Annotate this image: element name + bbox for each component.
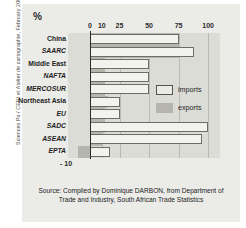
x-tick-label-0: 0 xyxy=(88,22,92,29)
category-label-mercosur: MERCOSUR xyxy=(26,86,66,93)
bar-exports xyxy=(78,146,90,159)
category-label-northeast-asia: Northeast Asia xyxy=(18,98,66,105)
legend-label-exports: exports xyxy=(178,103,202,112)
category-label-nafta: NAFTA xyxy=(43,73,66,80)
category-label-asean: ASEAN xyxy=(42,136,66,143)
category-label-middle-east: Middle East xyxy=(28,61,66,68)
bar-imports xyxy=(90,59,149,69)
category-label-china: China xyxy=(47,36,66,43)
bar-imports xyxy=(90,122,208,132)
source-note: Source: Compiled by Dominique DARBON, fr… xyxy=(30,186,232,205)
chart-figure: Sciences Po / CERI et Atelier de cartogr… xyxy=(0,0,246,228)
category-label-eu: EU xyxy=(57,111,66,118)
source-line-1: Source: Compiled by Dominique DARBON, fr… xyxy=(30,186,232,195)
x-tick-label-75: 75 xyxy=(175,22,183,29)
credit-text: Sciences Po / CERI et Atelier de cartogr… xyxy=(15,5,21,145)
x-tick-label-10: 10 xyxy=(98,22,106,29)
bar-imports xyxy=(90,109,120,119)
legend-label-imports: imports xyxy=(178,85,202,94)
bar-imports xyxy=(90,84,149,94)
bar-imports xyxy=(90,72,149,82)
category-label-saarc: SAARC xyxy=(42,48,66,55)
x-tick-label-100: 100 xyxy=(202,22,214,29)
source-line-2: Trade and Industry, South African Trade … xyxy=(30,195,232,204)
x-tick-label-50: 50 xyxy=(145,22,153,29)
bar-imports xyxy=(90,134,202,144)
legend-item-exports: exports xyxy=(156,102,234,117)
bar-imports xyxy=(90,47,194,57)
category-label-epta: EPTA xyxy=(48,148,66,155)
bar-imports xyxy=(90,147,110,157)
negative-tick-label: - 10 xyxy=(60,160,72,167)
legend-item-imports: imports xyxy=(156,84,234,99)
bar-imports xyxy=(90,97,120,107)
exports-swatch-icon xyxy=(156,103,173,113)
imports-swatch-icon xyxy=(156,85,173,95)
chart-legend: imports exports xyxy=(156,84,234,120)
percent-axis-label: % xyxy=(33,11,42,22)
bar-imports xyxy=(90,34,179,44)
category-label-sadc: SADC xyxy=(47,123,66,130)
x-tick-label-25: 25 xyxy=(116,22,124,29)
zero-axis-line xyxy=(90,31,91,159)
